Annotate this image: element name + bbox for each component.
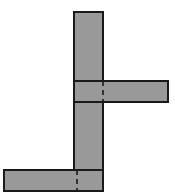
beam-assembly-diagram [0,0,175,193]
bottom-left-beam [4,170,103,191]
figure-container [0,0,175,193]
right-beam [74,81,168,102]
